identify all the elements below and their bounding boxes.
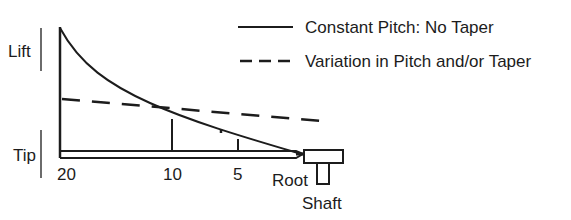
- station-20-label: 20: [57, 166, 76, 183]
- blade-strip: [60, 151, 303, 158]
- variation-pitch-dashed-line: [62, 99, 322, 121]
- shaft-label: Shaft: [302, 195, 342, 212]
- station-5-label: 5: [233, 166, 242, 183]
- legend-solid-label: Constant Pitch: No Taper: [305, 19, 494, 36]
- diagram-canvas: Constant Pitch: No Taper Variation in Pi…: [0, 0, 571, 220]
- lift-label: Lift: [8, 43, 31, 60]
- root-label: Root: [272, 172, 308, 189]
- hub-block: [304, 150, 343, 163]
- constant-pitch-curve: [60, 28, 298, 153]
- tip-label: Tip: [13, 147, 36, 164]
- shaft-block: [317, 163, 329, 184]
- legend-dashed-label: Variation in Pitch and/or Taper: [305, 53, 531, 70]
- station-10-label: 10: [163, 166, 182, 183]
